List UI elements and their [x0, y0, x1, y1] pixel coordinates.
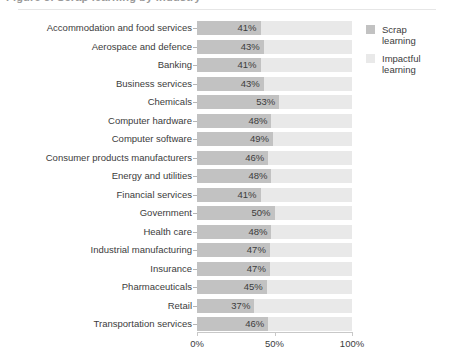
- bar-value-label: 46%: [197, 151, 268, 165]
- bar-row: 48%: [197, 225, 352, 239]
- bar-row: 47%: [197, 262, 352, 276]
- bar-row: 49%: [197, 132, 352, 146]
- bar-value-label: 47%: [197, 243, 270, 257]
- legend-label-line2: learning: [382, 35, 416, 46]
- bar-value-label: 50%: [197, 206, 275, 220]
- category-label: Consumer products manufacturers: [2, 151, 192, 165]
- bar-value-label: 48%: [197, 169, 271, 183]
- category-axis: Accommodation and food servicesAerospace…: [0, 21, 192, 332]
- chart-figure: Figure 3. Scrap learning by industry Acc…: [0, 0, 454, 358]
- bar-value-label: 43%: [197, 40, 264, 54]
- legend-item-impactful-learning[interactable]: Impactful learning: [366, 53, 452, 75]
- x-axis-tick-label: 0%: [190, 338, 204, 349]
- bar-row: 41%: [197, 58, 352, 72]
- bar-value-label: 48%: [197, 225, 271, 239]
- category-label: Government: [2, 206, 192, 220]
- x-axis-tick: [197, 332, 198, 336]
- category-label: Pharmaceuticals: [2, 280, 192, 294]
- bar-value-label: 46%: [197, 317, 268, 331]
- category-label: Financial services: [2, 188, 192, 202]
- category-label: Accommodation and food services: [2, 21, 192, 35]
- x-axis-tick: [275, 332, 276, 336]
- bar-row: 46%: [197, 317, 352, 331]
- figure-title-clipped: Figure 3. Scrap learning by industry: [0, 0, 454, 7]
- title-divider: [18, 9, 436, 10]
- legend-swatch-scrap-learning: [366, 25, 375, 34]
- bar-value-label: 37%: [197, 299, 254, 313]
- plot-area: 41%43%41%43%53%48%49%46%48%41%50%48%47%4…: [197, 21, 352, 332]
- x-axis-tick-label: 50%: [265, 338, 284, 349]
- figure-title-text: Figure 3. Scrap learning by industry: [6, 0, 201, 3]
- category-label: Health care: [2, 225, 192, 239]
- category-label: Aerospace and defence: [2, 40, 192, 54]
- bar-row: 48%: [197, 169, 352, 183]
- category-label: Energy and utilities: [2, 169, 192, 183]
- bar-row: 53%: [197, 95, 352, 109]
- category-label: Retail: [2, 299, 192, 313]
- bar-row: 43%: [197, 40, 352, 54]
- category-label: Industrial manufacturing: [2, 243, 192, 257]
- bar-row: 47%: [197, 243, 352, 257]
- category-label: Banking: [2, 58, 192, 72]
- bar-value-label: 41%: [197, 188, 261, 202]
- bar-row: 37%: [197, 299, 352, 313]
- bar-row: 41%: [197, 188, 352, 202]
- bar-value-label: 41%: [197, 21, 261, 35]
- bar-value-label: 49%: [197, 132, 273, 146]
- legend-label-scrap-learning: Scrap learning: [382, 24, 452, 46]
- bar-value-label: 43%: [197, 77, 264, 91]
- legend-label-line2: learning: [382, 64, 416, 75]
- category-label: Business services: [2, 77, 192, 91]
- x-axis-tick: [352, 332, 353, 336]
- legend-label-impactful-learning: Impactful learning: [382, 53, 452, 75]
- bar-value-label: 48%: [197, 114, 271, 128]
- category-label: Chemicals: [2, 95, 192, 109]
- bar-value-label: 41%: [197, 58, 261, 72]
- legend-label-line1: Impactful: [382, 53, 421, 64]
- legend-item-scrap-learning[interactable]: Scrap learning: [366, 24, 452, 46]
- category-label: Computer hardware: [2, 114, 192, 128]
- bar-value-label: 47%: [197, 262, 270, 276]
- bar-row: 50%: [197, 206, 352, 220]
- category-label: Computer software: [2, 132, 192, 146]
- bar-row: 41%: [197, 21, 352, 35]
- category-label: Insurance: [2, 262, 192, 276]
- bar-row: 45%: [197, 280, 352, 294]
- bar-value-label: 53%: [197, 95, 279, 109]
- legend: Scrap learning Impactful learning: [366, 24, 452, 82]
- x-axis-tick-label: 100%: [340, 338, 364, 349]
- bar-row: 46%: [197, 151, 352, 165]
- legend-label-line1: Scrap: [382, 24, 407, 35]
- bar-row: 48%: [197, 114, 352, 128]
- legend-swatch-impactful-learning: [366, 54, 375, 63]
- bar-row: 43%: [197, 77, 352, 91]
- bar-value-label: 45%: [197, 280, 267, 294]
- category-label: Transportation services: [2, 317, 192, 331]
